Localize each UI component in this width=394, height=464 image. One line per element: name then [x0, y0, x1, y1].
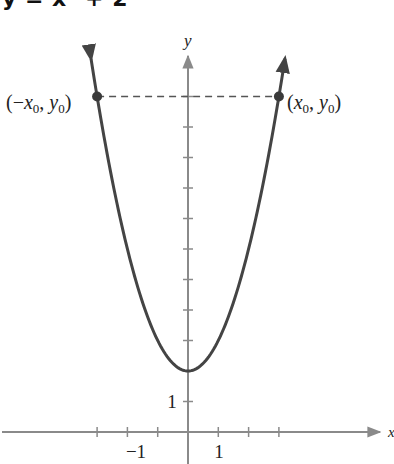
graph-figure: y = x² + 2 y x −1 1 1	[0, 0, 394, 464]
x-axis-label: x	[387, 424, 394, 440]
right-point-label: (x0, y0)	[287, 91, 341, 116]
point-left	[92, 92, 102, 102]
x-tick-label-1: 1	[214, 441, 224, 462]
plot-area: y x −1 1 1 (−x0, y0) (x0, y0)	[0, 0, 394, 464]
y-axis-label: y	[182, 31, 192, 50]
x-tick-label-neg1: −1	[126, 441, 146, 462]
y-tick-label-1: 1	[167, 391, 177, 412]
point-right	[274, 92, 284, 102]
left-point-label: (−x0, y0)	[6, 91, 71, 116]
